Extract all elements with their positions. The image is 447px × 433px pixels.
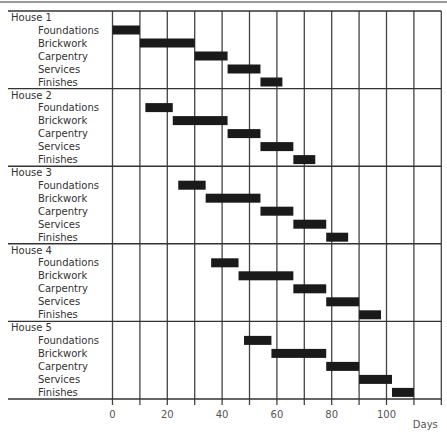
task-bar (260, 207, 293, 216)
x-tick-label: 20 (161, 409, 174, 420)
x-tick-label: 60 (271, 409, 284, 420)
task-bar (271, 349, 326, 358)
task-label: Carpentry (38, 51, 88, 62)
task-label: Finishes (38, 77, 78, 88)
x-tick-label: 80 (325, 409, 338, 420)
group-label: House 2 (11, 90, 52, 101)
task-bar (260, 142, 293, 151)
task-bar (359, 375, 392, 384)
task-label: Brickwork (38, 193, 87, 204)
task-label: Finishes (38, 309, 78, 320)
task-bar (228, 129, 261, 138)
group-label: House 5 (11, 322, 52, 333)
task-bar (392, 388, 414, 397)
task-label: Services (38, 141, 80, 152)
task-label: Services (38, 374, 80, 385)
task-label: Carpentry (38, 128, 88, 139)
task-label: Brickwork (38, 348, 87, 359)
task-bar (173, 116, 228, 125)
x-axis-title: Days (413, 419, 438, 430)
task-bar (260, 78, 282, 87)
task-bar (145, 103, 172, 112)
task-bar (293, 284, 326, 293)
task-label: Brickwork (38, 270, 87, 281)
task-label: Brickwork (38, 38, 87, 49)
group-label: House 4 (11, 245, 52, 256)
task-label: Foundations (38, 25, 99, 36)
task-label: Carpentry (38, 361, 88, 372)
task-bar (326, 233, 348, 242)
task-bar (228, 65, 261, 74)
task-label: Carpentry (38, 206, 88, 217)
task-label: Brickwork (38, 115, 87, 126)
task-label: Services (38, 64, 80, 75)
task-bar (140, 39, 195, 48)
task-label: Finishes (38, 387, 78, 398)
task-bar (293, 155, 315, 164)
task-label: Foundations (38, 180, 99, 191)
task-bar (113, 26, 140, 35)
task-label: Carpentry (38, 283, 88, 294)
gantt-chart: House 1FoundationsBrickworkCarpentryServ… (0, 0, 447, 433)
task-bar (326, 362, 359, 371)
task-bar (239, 271, 294, 280)
task-label: Foundations (38, 257, 99, 268)
task-bar (326, 297, 359, 306)
task-bar (359, 310, 381, 319)
x-tick-label: 40 (216, 409, 229, 420)
task-label: Foundations (38, 335, 99, 346)
task-label: Services (38, 219, 80, 230)
task-bar (244, 336, 271, 345)
task-label: Services (38, 296, 80, 307)
group-label: House 3 (11, 167, 52, 178)
task-bar (293, 220, 326, 229)
task-label: Finishes (38, 232, 78, 243)
task-label: Finishes (38, 154, 78, 165)
x-tick-label: 100 (377, 409, 396, 420)
task-label: Foundations (38, 102, 99, 113)
task-bar (206, 194, 261, 203)
task-bar (178, 181, 205, 190)
task-bar (195, 52, 228, 61)
group-label: House 1 (11, 12, 52, 23)
task-bar (211, 258, 238, 267)
x-tick-label: 0 (109, 409, 115, 420)
